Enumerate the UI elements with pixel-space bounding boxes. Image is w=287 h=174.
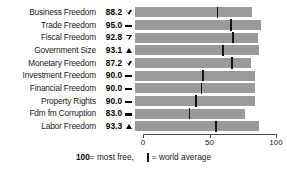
table-row: Trade Freedom95.0 <box>0 19 287 32</box>
world-average-marker <box>231 57 233 68</box>
row-score-value: 90.0 <box>96 84 122 93</box>
dash-icon <box>125 113 132 115</box>
axis-tick-label: 50 <box>205 138 214 147</box>
row-change-marker <box>122 84 135 93</box>
bar-track <box>135 44 287 57</box>
legend-average-text: = world average <box>152 152 211 162</box>
table-row: Government Size93.1 <box>0 44 287 57</box>
row-label: Fiscal Freedom <box>0 33 96 42</box>
bar-track <box>135 82 287 95</box>
bar-track <box>135 6 287 19</box>
row-score-value: 90.0 <box>96 71 122 80</box>
row-change-marker <box>122 97 135 106</box>
row-change-marker <box>122 46 135 55</box>
triangle-down-hollow-icon <box>126 61 132 66</box>
table-row: Fiscal Freedom92.8 <box>0 31 287 44</box>
table-row: Labor Freedom93.3 <box>0 120 287 133</box>
row-label: Labor Freedom <box>0 122 96 131</box>
world-average-marker <box>215 121 217 132</box>
row-score-value: 92.8 <box>96 33 122 42</box>
dash-icon <box>125 101 132 103</box>
dash-icon <box>125 75 132 77</box>
score-bar <box>135 33 258 43</box>
row-score-value: 93.1 <box>96 46 122 55</box>
dash-icon <box>125 88 132 90</box>
axis-tick <box>143 134 144 138</box>
triangle-down-hollow-icon <box>126 35 132 40</box>
row-label: Financial Freedom <box>0 84 96 93</box>
table-row: Financial Freedom90.0 <box>0 82 287 95</box>
world-average-marker <box>217 7 219 18</box>
row-label: Business Freedom <box>0 8 96 17</box>
bar-track <box>135 69 287 82</box>
axis-tick-label: 100 <box>269 138 282 147</box>
row-label: Property Rights <box>0 97 96 106</box>
axis-tick <box>276 134 277 138</box>
row-score-value: 95.0 <box>96 21 122 30</box>
bar-track <box>135 108 287 121</box>
table-row: Business Freedom88.2 <box>0 6 287 19</box>
world-average-marker <box>232 32 234 43</box>
score-bar <box>135 83 255 93</box>
world-average-tick-icon <box>147 153 149 162</box>
bar-track <box>135 120 287 133</box>
row-label: Fdm fm Corruption <box>0 109 96 118</box>
table-row: Fdm fm Corruption83.0 <box>0 108 287 121</box>
row-score-value: 87.2 <box>96 59 122 68</box>
row-score-value: 93.3 <box>96 122 122 131</box>
table-row: Monetary Freedom87.2 <box>0 57 287 70</box>
axis-tick-label: 0 <box>141 138 145 147</box>
score-bar <box>135 58 251 68</box>
row-score-value: 88.2 <box>96 8 122 17</box>
world-average-marker <box>230 19 232 30</box>
world-average-marker <box>202 70 204 81</box>
table-row: Property Rights90.0 <box>0 95 287 108</box>
dash-icon <box>125 25 132 27</box>
row-score-value: 83.0 <box>96 109 122 118</box>
freedom-index-chart: Business Freedom88.2Trade Freedom95.0Fis… <box>0 0 287 174</box>
world-average-marker <box>189 108 191 119</box>
triangle-up-solid-icon <box>126 48 132 53</box>
row-label: Investment Freedom <box>0 71 96 80</box>
legend-most-free-text: = most free, <box>90 152 134 162</box>
legend-most-free-value: 100 <box>76 152 90 162</box>
row-label: Trade Freedom <box>0 21 96 30</box>
world-average-marker <box>222 45 224 56</box>
row-change-marker <box>122 21 135 30</box>
score-bar <box>135 121 259 131</box>
bar-track <box>135 19 287 32</box>
triangle-down-hollow-icon <box>126 10 132 15</box>
world-average-marker <box>195 95 197 106</box>
score-bar <box>135 45 259 55</box>
row-change-marker <box>122 71 135 80</box>
row-change-marker <box>122 33 135 42</box>
score-bar <box>135 71 255 81</box>
axis-tick <box>210 134 211 138</box>
row-change-marker <box>122 122 135 131</box>
chart-rows: Business Freedom88.2Trade Freedom95.0Fis… <box>0 6 287 133</box>
bar-track <box>135 95 287 108</box>
row-label: Monetary Freedom <box>0 59 96 68</box>
row-change-marker <box>122 109 135 118</box>
row-change-marker <box>122 59 135 68</box>
row-score-value: 90.0 <box>96 97 122 106</box>
triangle-up-solid-icon <box>126 124 132 129</box>
bar-track <box>135 57 287 70</box>
chart-legend: 100 = most free, = world average <box>0 152 287 162</box>
row-change-marker <box>122 8 135 17</box>
table-row: Investment Freedom90.0 <box>0 69 287 82</box>
world-average-marker <box>201 83 203 94</box>
score-bar <box>135 20 261 30</box>
score-bar <box>135 7 252 17</box>
row-label: Government Size <box>0 46 96 55</box>
bar-track <box>135 31 287 44</box>
